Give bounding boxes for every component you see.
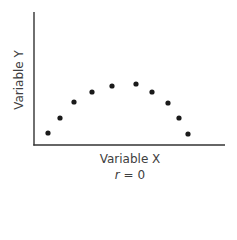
data-point bbox=[71, 99, 76, 104]
data-point bbox=[109, 83, 114, 88]
data-point bbox=[133, 81, 138, 86]
data-point bbox=[45, 130, 50, 135]
r-value: = 0 bbox=[120, 168, 145, 182]
correlation-annotation: r = 0 bbox=[0, 168, 237, 182]
x-axis-label: Variable X bbox=[0, 152, 237, 166]
data-point bbox=[185, 131, 190, 136]
data-point bbox=[165, 100, 170, 105]
data-point bbox=[57, 115, 62, 120]
data-point bbox=[149, 89, 154, 94]
data-point bbox=[176, 115, 181, 120]
y-axis-label: Variable Y bbox=[12, 50, 26, 110]
data-points bbox=[45, 81, 190, 136]
data-point bbox=[89, 89, 94, 94]
